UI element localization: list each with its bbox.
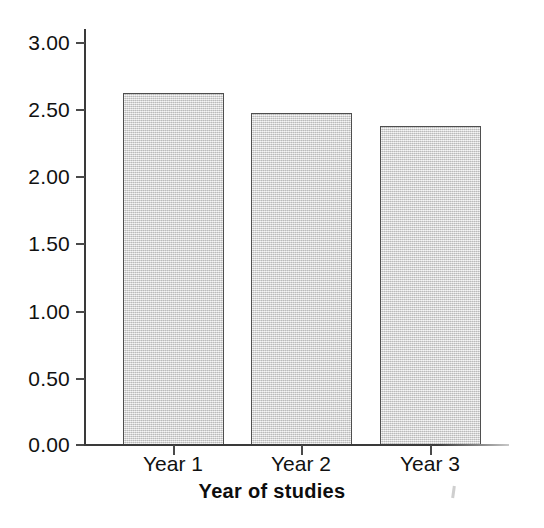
bar-chart: 3.00 2.50 2.00 1.50 1.00 0.50 0.00 Year … [0, 0, 544, 528]
x-tick-label-year-1: Year 1 [113, 452, 233, 476]
x-tick-label-year-2: Year 2 [241, 452, 361, 476]
y-tick-label-0-5: 0.50 [0, 367, 70, 391]
bar-year-3 [380, 126, 481, 445]
y-tick-label-2-5: 2.50 [0, 98, 70, 122]
bar-year-1 [123, 93, 224, 445]
y-axis-line [84, 29, 86, 446]
y-tick-1 [76, 311, 85, 313]
y-tick-label-0: 0.00 [0, 433, 70, 457]
y-tick-0-5 [76, 378, 85, 380]
y-tick-label-1-5: 1.50 [0, 232, 70, 256]
y-tick-label-2: 2.00 [0, 165, 70, 189]
x-axis-line [84, 444, 509, 446]
y-tick-1-5 [76, 243, 85, 245]
x-tick-label-year-3: Year 3 [370, 452, 490, 476]
y-tick-label-1: 1.00 [0, 300, 70, 324]
bar-year-2 [251, 113, 352, 445]
y-tick-label-3: 3.00 [0, 31, 70, 55]
x-axis-title: Year of studies [0, 480, 544, 503]
y-tick-2-5 [76, 109, 85, 111]
y-tick-3 [76, 42, 85, 44]
y-tick-2 [76, 176, 85, 178]
